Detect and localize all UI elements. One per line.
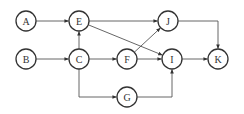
- node-i: I: [162, 49, 182, 69]
- node-label: B: [23, 54, 30, 65]
- edge-j-to-k: [178, 21, 218, 49]
- edge-g-to-i: [137, 70, 172, 98]
- node-label: E: [76, 16, 82, 27]
- node-label: J: [166, 16, 170, 27]
- graph-canvas: ABECFJIKG: [0, 0, 244, 114]
- node-c: C: [69, 49, 89, 69]
- edge-c-to-g: [79, 69, 117, 97]
- node-k: K: [208, 49, 228, 69]
- node-label: A: [22, 16, 30, 27]
- node-label: I: [170, 54, 173, 65]
- node-f: F: [117, 49, 137, 69]
- node-label: F: [124, 54, 130, 65]
- node-e: E: [69, 11, 89, 31]
- node-j: J: [158, 11, 178, 31]
- directed-graph-diagram: ABECFJIKG: [0, 0, 244, 114]
- node-b: B: [16, 49, 36, 69]
- node-label: G: [123, 92, 130, 103]
- node-label: C: [76, 54, 83, 65]
- node-g: G: [117, 87, 137, 107]
- node-a: A: [16, 11, 36, 31]
- node-label: K: [214, 54, 222, 65]
